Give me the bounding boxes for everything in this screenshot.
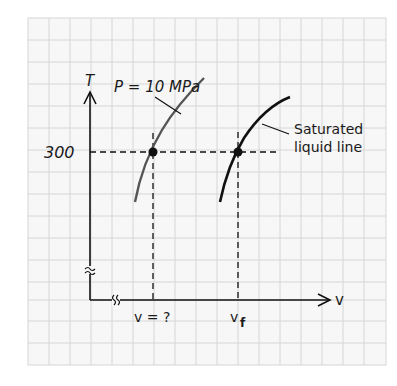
tv-diagram: T v 300 P = 10 MPa Saturated liquid line… [0,0,397,386]
x-axis-label: v [335,291,344,309]
state-point-compressed [149,148,158,157]
sat-label-line1: Saturated [294,121,363,137]
state-point-saturated [234,148,243,157]
isobar-label: P = 10 MPa [114,78,200,96]
vf-subscript: f [240,316,246,330]
vf-label: v [230,309,238,325]
grid-paper [28,18,386,365]
v-unknown-label: v = ? [134,309,170,325]
sat-label-line2: liquid line [294,139,362,155]
y-tick-300: 300 [44,143,75,162]
